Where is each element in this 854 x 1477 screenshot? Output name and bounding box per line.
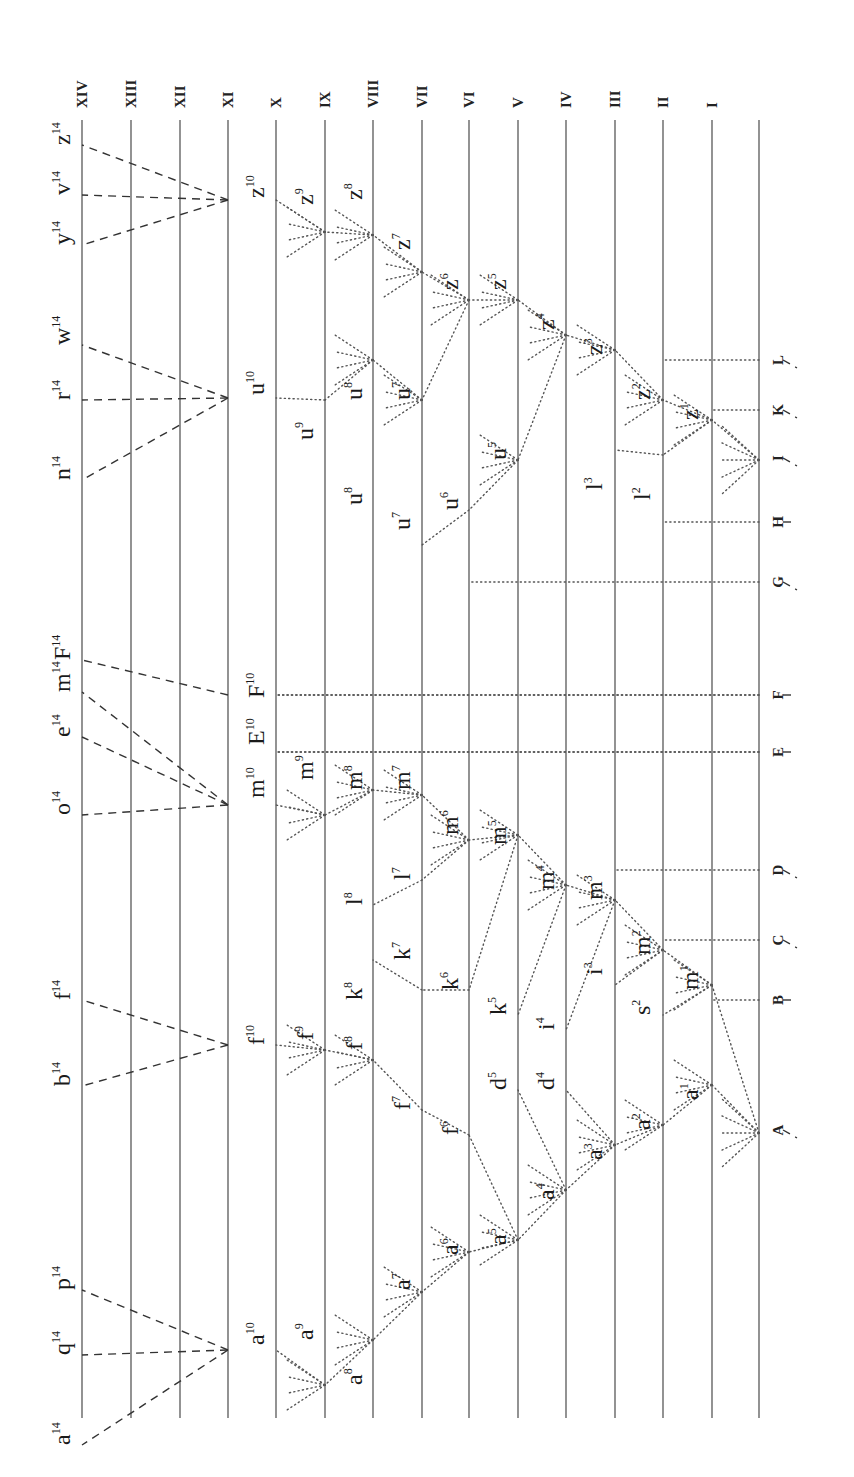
ancestor-label-F: F: [770, 690, 786, 699]
branch: [373, 1292, 422, 1340]
branch: [325, 790, 373, 815]
branch: [431, 840, 469, 848]
branch: [287, 232, 325, 240]
generation-label: VI: [461, 91, 477, 108]
branch: [373, 880, 422, 905]
branch: [325, 232, 373, 235]
branch: [721, 1133, 759, 1151]
species-b14: b14: [49, 1062, 75, 1086]
generation-label: III: [607, 90, 623, 108]
branch: [384, 1292, 422, 1300]
branch: [528, 335, 566, 343]
branch: [422, 510, 469, 545]
species-k6: k6: [437, 972, 463, 990]
branch: [335, 235, 373, 243]
species-z1: z1: [677, 403, 703, 420]
species-m1: m1: [677, 965, 703, 990]
species-m10: m10: [243, 767, 269, 798]
species-i3: i3: [581, 962, 607, 975]
generation-label: I: [704, 102, 720, 108]
branch: [384, 264, 422, 272]
species-E10: E10: [243, 718, 269, 745]
dashed-branch: [82, 345, 228, 398]
branch: [287, 1050, 325, 1058]
dashed-branch: [82, 145, 228, 200]
species-l3: l3: [581, 477, 607, 490]
branch: [335, 360, 373, 368]
generation-lines: [82, 120, 759, 1418]
species-v14: v14: [49, 171, 75, 195]
species-F10: F10: [243, 673, 269, 698]
branch: [480, 460, 518, 468]
branch: [287, 807, 325, 815]
branch: [721, 1133, 759, 1168]
species-z4: z4: [533, 313, 559, 330]
species-m8: m8: [341, 765, 367, 790]
generation-label: V: [510, 97, 526, 108]
species-m4: m4: [533, 865, 559, 890]
species-p14: p14: [49, 1266, 75, 1290]
branch: [287, 1377, 325, 1385]
species-l7: l7: [389, 867, 415, 880]
branch: [431, 300, 469, 308]
species-F14: F14: [49, 635, 75, 660]
generation-label: XIII: [123, 79, 139, 108]
species-m5: m5: [485, 820, 511, 845]
generation-label: VII: [414, 85, 430, 108]
ancestor-label-I: I: [770, 455, 786, 461]
species-k5: k5: [485, 997, 511, 1015]
branch: [469, 460, 518, 510]
species-u8a: u8: [341, 382, 367, 400]
species-u5: u5: [485, 442, 511, 460]
dashed-branch: [82, 1350, 228, 1355]
species-a1: a1: [677, 1083, 703, 1100]
generation-label: XIV: [74, 80, 90, 108]
species-k8: k8: [341, 982, 367, 1000]
species-r14: r14: [49, 380, 75, 400]
dashed-branch: [82, 1350, 228, 1445]
branch: [287, 815, 325, 823]
species-a8: a8: [341, 1368, 367, 1385]
branch: [287, 1385, 325, 1393]
species-q14: q14: [49, 1331, 75, 1355]
species-z9: z9: [292, 188, 318, 205]
species-f6: f6: [437, 1121, 463, 1135]
dashed-branch: [82, 692, 228, 805]
species-z2: z2: [629, 383, 655, 400]
branch: [674, 420, 712, 428]
branch: [431, 292, 469, 300]
species-l2: l2: [629, 487, 655, 500]
dashed-branch: [82, 398, 228, 400]
ancestor-label-C: C: [770, 935, 786, 946]
generation-labels: XIVXIIIXIIXIXIXVIIIVIIVIVIVIIIIII: [74, 79, 720, 108]
ancestor-label-D: D: [770, 864, 786, 875]
branch: [721, 460, 759, 495]
species-m6: m6: [437, 810, 463, 835]
species-u7a: u7: [389, 382, 415, 400]
generation-label: VIII: [365, 79, 381, 108]
species-n14: n14: [49, 456, 75, 480]
species-a5: a5: [485, 1228, 511, 1245]
ancestor-label-G: G: [770, 576, 786, 588]
species-f9: f9: [292, 1026, 318, 1040]
species-a14: a14: [49, 1422, 75, 1445]
species-labels: a14q14p14b14f14o14e14m14F14n14r14w14y14v…: [49, 122, 703, 1445]
species-z10: z10: [243, 175, 269, 198]
branch: [335, 790, 373, 798]
dashed-branch: [82, 805, 228, 815]
branch: [335, 352, 373, 360]
branch: [384, 795, 422, 803]
generation-label: IV: [558, 91, 574, 108]
branch: [615, 450, 663, 455]
species-f8: f8: [341, 1036, 367, 1050]
species-a10: a10: [243, 1322, 269, 1345]
branch: [287, 1042, 325, 1050]
species-a6: a6: [437, 1238, 463, 1255]
dashed-branch: [82, 398, 228, 480]
branch: [422, 840, 469, 880]
generation-label: II: [655, 96, 671, 108]
species-a4: a4: [533, 1183, 559, 1200]
divergence-diagram: XIVXIIIXIIXIXIXVIIIVIIVIVIVIIIIII ABCDEF…: [0, 0, 854, 1477]
branch: [721, 1116, 759, 1134]
species-m7: m7: [389, 765, 415, 790]
